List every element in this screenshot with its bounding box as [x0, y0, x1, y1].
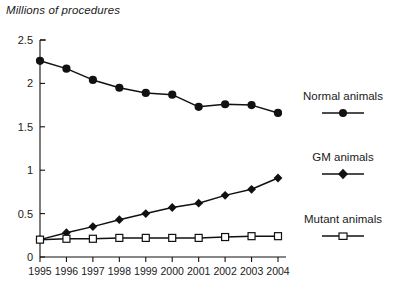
data-point-marker [169, 234, 176, 241]
data-point-marker [142, 234, 149, 241]
data-point-marker [168, 203, 177, 212]
data-point-marker [168, 91, 176, 99]
data-point-marker [116, 234, 123, 241]
data-point-marker [195, 234, 202, 241]
x-axis-tick-label: 2004 [266, 265, 290, 277]
legend-item-normal-animals: Normal animals [296, 90, 390, 124]
data-point-marker [115, 84, 123, 92]
x-axis-tick-label: 1999 [134, 265, 158, 277]
legend-label-normal-animals: Normal animals [296, 90, 390, 102]
chart-x-axis-ticks: 1995199619971998199920002001200220032004 [28, 257, 290, 277]
data-point-marker [62, 65, 70, 73]
data-point-marker [221, 191, 230, 200]
data-point-marker [89, 235, 96, 242]
legend-label-gm-animals: GM animals [296, 151, 390, 163]
data-point-marker [195, 103, 203, 111]
data-point-marker [142, 89, 150, 97]
data-point-marker [274, 109, 282, 117]
x-axis-tick-label: 1996 [55, 265, 79, 277]
x-axis-tick-label: 2000 [161, 265, 185, 277]
data-point-marker [274, 174, 283, 183]
data-point-marker [63, 235, 70, 242]
data-point-marker [247, 101, 255, 109]
chart-series-mutant-animals [37, 233, 282, 243]
legend-label-mutant-animals: Mutant animals [294, 213, 392, 225]
chart-y-axis-ticks: 00.511.522.5 [18, 34, 45, 263]
chart-container: Millions of procedures 00.511.522.5 1995… [0, 0, 393, 290]
legend-marker-mutant-animals [294, 229, 392, 243]
legend-item-gm-animals: GM animals [296, 151, 390, 185]
y-axis-tick-label: 0 [27, 251, 33, 263]
x-axis-tick-label: 2002 [213, 265, 237, 277]
y-axis-tick-label: 2.5 [18, 34, 33, 46]
y-axis-tick-label: 1.5 [18, 121, 33, 133]
y-axis-tick-label: 0.5 [18, 208, 33, 220]
data-point-marker [37, 236, 44, 243]
y-axis-tick-label: 2 [27, 77, 33, 89]
data-point-marker [89, 76, 97, 84]
chart-series-gm-animals [36, 174, 283, 244]
data-point-marker [248, 233, 255, 240]
data-point-marker [115, 215, 124, 224]
x-axis-tick-label: 1995 [28, 265, 52, 277]
x-axis-tick-label: 2001 [187, 265, 211, 277]
data-point-marker [141, 209, 150, 218]
x-axis-tick-label: 1998 [108, 265, 132, 277]
x-axis-tick-label: 2003 [240, 265, 264, 277]
x-axis-tick-label: 1997 [81, 265, 105, 277]
data-point-marker [88, 222, 97, 231]
y-axis-tick-label: 1 [27, 164, 33, 176]
data-point-marker [222, 234, 229, 241]
data-point-marker [221, 100, 229, 108]
legend-marker-normal-animals [296, 106, 390, 120]
legend-marker-gm-animals [296, 167, 390, 181]
data-point-marker [275, 233, 282, 240]
data-point-marker [194, 199, 203, 208]
data-point-marker [247, 185, 256, 194]
chart-series-group [36, 57, 283, 244]
legend-item-mutant-animals: Mutant animals [294, 213, 392, 247]
chart-series-normal-animals [36, 57, 282, 117]
data-point-marker [36, 57, 44, 65]
